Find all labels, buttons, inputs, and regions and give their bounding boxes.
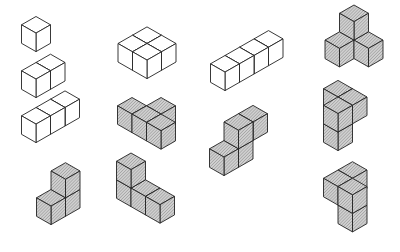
piece-tetracube-skew xyxy=(210,105,268,175)
piece-tricube-bent-corner xyxy=(37,163,81,225)
piece-dicube-line xyxy=(22,54,66,97)
piece-tetracube-tripod xyxy=(325,5,383,67)
cube xyxy=(22,17,51,52)
piece-tetracube-chiral-a xyxy=(324,80,368,150)
piece-tricube-line xyxy=(22,91,80,143)
piece-tetracube-t xyxy=(118,98,176,150)
piece-tetracube-line xyxy=(211,31,284,91)
piece-tetracube-chiral-b xyxy=(324,162,368,232)
pieces-group xyxy=(22,5,384,232)
polycube-diagram xyxy=(0,0,400,252)
piece-monocube xyxy=(22,17,51,52)
piece-tetracube-l xyxy=(117,153,175,223)
piece-tetracube-square xyxy=(118,27,176,79)
